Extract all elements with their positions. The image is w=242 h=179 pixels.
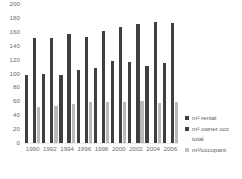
year-group bbox=[145, 5, 162, 144]
legend-label: m²/occupant bbox=[192, 147, 226, 153]
bar-m-rental bbox=[163, 63, 166, 144]
y-axis: 020406080100120140160180200 bbox=[0, 0, 22, 148]
x-axis-tick: 1992 bbox=[41, 146, 58, 158]
legend-item[interactable]: m² owner occ bbox=[185, 124, 242, 135]
bar-m-occupant bbox=[37, 107, 40, 144]
year-group bbox=[41, 5, 58, 144]
bar-m-occupant bbox=[175, 102, 178, 144]
plot-area bbox=[24, 4, 179, 144]
y-axis-tick: 0 bbox=[16, 140, 20, 146]
legend-swatch-icon bbox=[185, 148, 189, 152]
y-axis-tick: 200 bbox=[9, 1, 20, 7]
y-axis-tick: 100 bbox=[9, 70, 20, 76]
y-axis-tick: 160 bbox=[9, 29, 20, 35]
x-axis-line bbox=[24, 143, 179, 144]
x-axis-tick: 2006 bbox=[162, 146, 179, 158]
x-axis-tick: 1998 bbox=[93, 146, 110, 158]
legend-swatch-icon bbox=[185, 127, 189, 131]
legend-item[interactable]: m² rental bbox=[185, 113, 242, 124]
year-group bbox=[110, 5, 127, 144]
bar-total bbox=[85, 37, 88, 144]
bar-m-rental bbox=[128, 62, 131, 144]
bar-chart: 020406080100120140160180200 199019921994… bbox=[0, 0, 242, 179]
x-axis-tick: 1990 bbox=[24, 146, 41, 158]
legend-label: total bbox=[192, 136, 204, 142]
year-group bbox=[58, 5, 75, 144]
bar-total bbox=[102, 31, 105, 144]
bar-m-rental bbox=[145, 66, 148, 144]
year-group bbox=[93, 5, 110, 144]
bars-layer bbox=[24, 5, 179, 144]
y-axis-tick: 20 bbox=[13, 126, 20, 132]
bar-total bbox=[171, 23, 174, 144]
bar-m-occupant bbox=[72, 104, 75, 144]
legend-label: m² rental bbox=[192, 115, 216, 121]
legend-label: m² owner occ bbox=[192, 126, 229, 132]
y-axis-tick: 120 bbox=[9, 56, 20, 62]
y-axis-tick: 40 bbox=[13, 112, 20, 118]
x-axis-tick: 1996 bbox=[76, 146, 93, 158]
year-group bbox=[162, 5, 179, 144]
bar-total bbox=[33, 38, 36, 144]
x-axis-tick: 2000 bbox=[110, 146, 127, 158]
bar-m-rental bbox=[94, 68, 97, 144]
legend-swatch-icon bbox=[185, 116, 189, 120]
bar-m-rental bbox=[42, 74, 45, 144]
x-axis: 199019921994199619982000200220042006 bbox=[24, 146, 179, 158]
bar-m-rental bbox=[59, 75, 62, 145]
bar-m-rental bbox=[77, 70, 80, 144]
bar-m-occupant bbox=[158, 103, 161, 144]
y-axis-tick: 60 bbox=[13, 98, 20, 104]
bar-m-occupant bbox=[123, 102, 126, 144]
year-group bbox=[127, 5, 144, 144]
legend-item[interactable]: m²/occupant bbox=[185, 145, 242, 156]
bar-total bbox=[50, 38, 53, 144]
y-axis-tick: 140 bbox=[9, 43, 20, 49]
bar-total bbox=[67, 34, 70, 144]
bar-m-occupant bbox=[106, 102, 109, 144]
x-axis-tick: 2002 bbox=[127, 146, 144, 158]
y-axis-tick: 180 bbox=[9, 15, 20, 21]
bar-m-occupant bbox=[140, 101, 143, 144]
bar-m-occupant bbox=[89, 102, 92, 144]
year-group bbox=[24, 5, 41, 144]
bar-m-rental bbox=[111, 61, 114, 144]
y-axis-tick: 80 bbox=[13, 84, 20, 90]
bar-total bbox=[119, 27, 122, 144]
bar-m-rental bbox=[25, 75, 28, 144]
year-group bbox=[76, 5, 93, 144]
legend-item[interactable]: total bbox=[185, 134, 242, 145]
bar-m-occupant bbox=[54, 106, 57, 144]
legend-swatch-icon bbox=[185, 137, 189, 141]
bar-total bbox=[154, 22, 157, 144]
chart-legend: m² rentalm² owner occtotalm²/occupant bbox=[185, 113, 242, 155]
bar-total bbox=[136, 24, 139, 144]
x-axis-tick: 2004 bbox=[145, 146, 162, 158]
x-axis-tick: 1994 bbox=[58, 146, 75, 158]
